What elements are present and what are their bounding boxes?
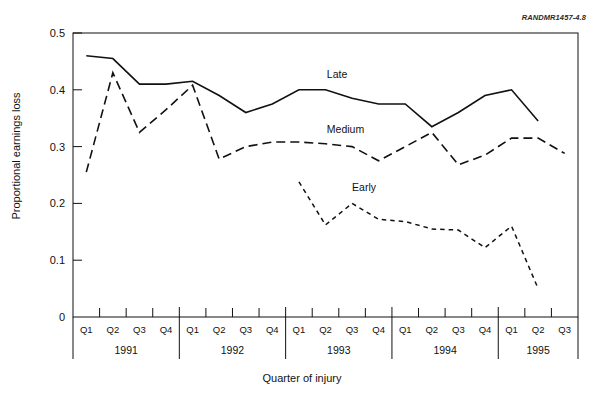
- chart-figure: RANDMR1457-4.8 Proportional earnings los…: [0, 0, 604, 404]
- quarter-label: Q4: [372, 324, 385, 335]
- year-label: 1994: [433, 344, 457, 356]
- series-line-early: [299, 182, 538, 289]
- quarter-label: Q2: [425, 324, 438, 335]
- series-label-medium: Medium: [327, 123, 365, 135]
- y-tick-label: 0.4: [50, 84, 65, 96]
- quarter-label: Q4: [266, 324, 279, 335]
- y-tick-label: 0: [59, 311, 65, 323]
- y-tick-label: 0.3: [50, 141, 65, 153]
- plot-svg: 0.50.40.30.20.10 Q1Q2Q3Q4Q1Q2Q3Q4Q1Q2Q3Q…: [0, 0, 604, 404]
- quarter-label: Q3: [558, 324, 571, 335]
- quarter-tick-labels: Q1Q2Q3Q4Q1Q2Q3Q4Q1Q2Q3Q4Q1Q2Q3Q4Q1Q2Q3: [80, 324, 571, 335]
- quarter-label: Q3: [346, 324, 359, 335]
- quarter-label: Q2: [532, 324, 545, 335]
- series-label-early: Early: [352, 181, 377, 193]
- year-label: 1991: [114, 344, 138, 356]
- year-label: 1992: [221, 344, 245, 356]
- series-line-late: [86, 56, 538, 127]
- quarter-label: Q1: [80, 324, 93, 335]
- series-label-late: Late: [327, 68, 348, 80]
- quarter-label: Q1: [293, 324, 306, 335]
- quarter-label: Q1: [186, 324, 199, 335]
- y-axis-ticks: 0.50.40.30.20.10: [50, 27, 82, 323]
- quarter-label: Q4: [160, 324, 173, 335]
- series-annotations: LateMediumEarly: [327, 68, 377, 193]
- quarter-label: Q3: [452, 324, 465, 335]
- y-tick-label: 0.1: [50, 254, 65, 266]
- x-axis-ticks: [100, 308, 552, 317]
- quarter-label: Q2: [213, 324, 226, 335]
- quarter-label: Q1: [399, 324, 412, 335]
- quarter-label: Q1: [505, 324, 518, 335]
- quarter-label: Q4: [479, 324, 492, 335]
- year-label: 1995: [526, 344, 550, 356]
- quarter-label: Q2: [107, 324, 120, 335]
- y-tick-label: 0.2: [50, 197, 65, 209]
- year-label: 1993: [327, 344, 351, 356]
- series-line-medium: [86, 73, 564, 172]
- series-lines: [86, 56, 564, 289]
- quarter-label: Q3: [133, 324, 146, 335]
- quarter-label: Q3: [239, 324, 252, 335]
- plot-frame: [73, 33, 578, 317]
- y-tick-label: 0.5: [50, 27, 65, 39]
- plot-border: [73, 33, 578, 317]
- quarter-label: Q2: [319, 324, 332, 335]
